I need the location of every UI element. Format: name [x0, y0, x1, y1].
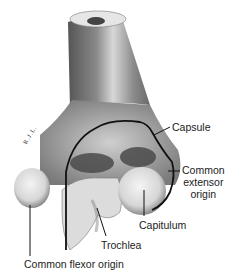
label-trochlea: Trochlea: [101, 239, 141, 251]
label-common-extensor-origin: Common extensor origin: [182, 164, 225, 200]
label-capsule: Capsule: [172, 121, 211, 133]
bone-drawing: [0, 0, 240, 280]
label-capitulum: Capitulum: [139, 219, 186, 231]
humerus-illustration: R.J.L. Capsule Common extensor origin Ca…: [0, 0, 240, 280]
label-common-flexor-origin: Common flexor origin: [24, 258, 124, 270]
